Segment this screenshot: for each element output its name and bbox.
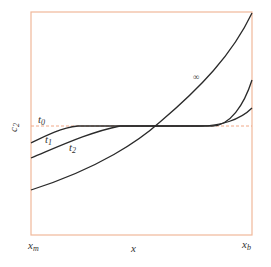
concentration-profile-diagram bbox=[0, 0, 271, 267]
x-axis-right-label: xb bbox=[242, 239, 251, 252]
curve-t2 bbox=[31, 80, 252, 158]
curve-label-infinity: ∞ bbox=[193, 73, 199, 82]
curve-label-t1-sub: 1 bbox=[48, 138, 52, 147]
y-axis-label: c2 bbox=[8, 123, 21, 132]
curve-label-t1: t1 bbox=[45, 134, 52, 147]
x-axis-left-label: xm bbox=[28, 240, 39, 253]
x-axis-label: x bbox=[131, 243, 136, 254]
y-axis-label-main: c bbox=[7, 127, 19, 132]
x-axis-label-main: x bbox=[131, 242, 136, 254]
y-axis-label-sub: 2 bbox=[12, 123, 21, 127]
curve-label-t2: t2 bbox=[69, 142, 76, 155]
plot-frame bbox=[31, 12, 252, 235]
curve-infinity bbox=[31, 13, 252, 190]
x-left-sub: m bbox=[33, 244, 39, 253]
curve-label-t0-sub: 0 bbox=[41, 118, 45, 127]
curve-label-t2-sub: 2 bbox=[72, 146, 76, 155]
curve-label-t0: t0 bbox=[38, 114, 45, 127]
curve-label-infinity-main: ∞ bbox=[193, 72, 199, 82]
x-right-sub: b bbox=[247, 243, 251, 252]
